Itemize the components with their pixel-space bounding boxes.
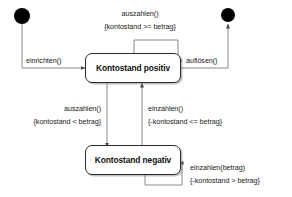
transition-label-einrichten: einrichten() bbox=[26, 56, 61, 65]
transition-label-auszahlen-self-guard: {kontostand >= betrag} bbox=[104, 22, 176, 31]
final-state-node bbox=[221, 8, 235, 22]
state-kontostand-positiv[interactable]: Kontostand positiv bbox=[85, 53, 181, 83]
transition-label-einzahlen-self-guard: {-kontostand > betrag} bbox=[190, 176, 260, 185]
transition-label-auszahlen-down-guard: {kontostand < betrag} bbox=[34, 117, 102, 126]
state-diagram-canvas: Kontostand positiv Kontostand negativ au… bbox=[0, 0, 292, 197]
transition-label-einzahlen-up-guard: {-kontostand <= betrag} bbox=[148, 117, 222, 126]
transition-label-aufloesen: auflösen() bbox=[186, 56, 217, 65]
state-kontostand-positiv-label: Kontostand positiv bbox=[96, 63, 170, 73]
state-kontostand-negativ[interactable]: Kontostand negativ bbox=[85, 145, 181, 175]
transition-label-auszahlen-down-event: auszahlen() bbox=[64, 104, 101, 113]
transition-label-einzahlen-up-event: einzahlen() bbox=[148, 104, 183, 113]
initial-state-node bbox=[14, 8, 30, 24]
state-kontostand-negativ-label: Kontostand negativ bbox=[95, 155, 171, 165]
transition-label-auszahlen-self-event: auszahlen() bbox=[121, 9, 158, 18]
transition-label-einzahlen-self-event: einzahlen(betrag) bbox=[190, 163, 245, 172]
